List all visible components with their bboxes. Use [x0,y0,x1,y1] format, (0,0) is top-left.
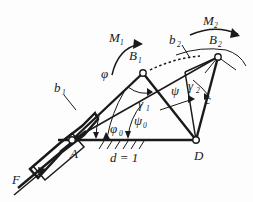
leader-line-b1 [64,95,76,110]
label-joint-b2: B 2 [209,32,222,49]
angle-arrow-phi0 [93,132,99,139]
svg-text:b: b [169,32,176,47]
svg-text:0: 0 [143,121,147,130]
label-angle-psi0: ψ 0 [134,113,147,130]
svg-text:γ: γ [138,96,144,111]
svg-text:2: 2 [214,21,218,30]
svg-text:1: 1 [138,56,142,65]
svg-text:1: 1 [146,104,150,113]
label-angle-phi0: φ 0 [110,121,123,138]
svg-text:2: 2 [218,40,222,49]
svg-text:b: b [54,80,61,95]
label-moment-2: M 2 [202,13,218,30]
angle-arrow-psi [188,95,195,103]
svg-text:B: B [209,32,217,47]
svg-text:φ: φ [110,121,117,136]
joint-b1 [140,70,146,76]
joint-a [69,137,75,143]
label-force: F [11,172,21,187]
label-link-b2: b 2 [169,32,181,49]
label-joint-a: A [69,146,78,161]
label-angle-phi: φ [101,66,108,81]
diagram-canvas: F A D d = 1 B 1 B 2 M 1 M 2 b 1 b 2 c φ … [0,0,253,202]
label-link-b1: b 1 [54,80,66,97]
angle-arrow-phi [103,132,110,139]
joint-b2 [215,54,221,60]
svg-text:γ: γ [188,78,194,93]
label-angle-psi: ψ [171,83,180,98]
moment-arrow-m2 [230,28,240,38]
svg-text:1: 1 [120,38,124,47]
label-joint-b1: B 1 [129,48,142,65]
label-joint-d: D [193,148,204,163]
svg-text:0: 0 [119,129,123,138]
label-ground-length: d = 1 [110,150,138,165]
label-link-c: c [205,92,211,107]
svg-text:B: B [129,48,137,63]
label-moment-1: M 1 [108,30,124,47]
angle-arrow-psi0 [125,131,131,139]
trajectory-arc-b2 [176,49,246,66]
svg-text:1: 1 [62,88,66,97]
joint-d [193,137,199,143]
svg-text:ψ: ψ [134,113,143,128]
svg-text:2: 2 [177,40,181,49]
svg-text:2: 2 [196,86,200,95]
link-b2-segment [185,57,218,72]
ground-hatching [99,141,144,149]
